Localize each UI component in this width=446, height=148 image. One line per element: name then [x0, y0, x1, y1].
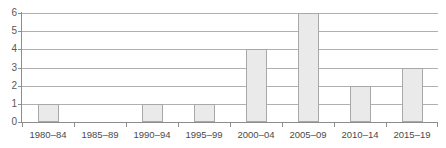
y-tick-label-2: 2: [2, 81, 17, 91]
bar-2005–09: [298, 13, 319, 122]
y-tick-label-1: 1: [2, 99, 17, 109]
bar-2015–19: [402, 68, 423, 123]
y-tick-label-3: 3: [2, 63, 17, 73]
y-tick-label-0: 0: [2, 117, 17, 127]
bar-2000–04: [246, 49, 267, 122]
x-tick-mark-2: [126, 122, 127, 127]
bar-1990–94: [142, 104, 163, 122]
x-tick-mark-3: [178, 122, 179, 127]
x-tick-label-1985–89: 1985–89: [74, 129, 126, 141]
x-tick-mark-1: [74, 122, 75, 127]
x-tick-label-2015–19: 2015–19: [386, 129, 438, 141]
x-tick-label-2010–14: 2010–14: [334, 129, 386, 141]
x-tick-label-1990–94: 1990–94: [126, 129, 178, 141]
x-tick-mark-8: [437, 122, 438, 127]
x-tick-mark-5: [282, 122, 283, 127]
y-tick-label-6: 6: [2, 8, 17, 18]
y-tick-label-4: 4: [2, 44, 17, 54]
plot-area: [22, 13, 438, 122]
x-tick-mark-7: [386, 122, 387, 127]
y-tick-label-5: 5: [2, 26, 17, 36]
x-tick-label-1995–99: 1995–99: [178, 129, 230, 141]
x-tick-label-2005–09: 2005–09: [282, 129, 334, 141]
x-tick-label-2000–04: 2000–04: [230, 129, 282, 141]
bar-series: [22, 13, 438, 122]
bar-1995–99: [194, 104, 215, 122]
x-axis-labels: 1980–841985–891990–941995–992000–042005–…: [22, 129, 438, 143]
x-tick-label-1980–84: 1980–84: [22, 129, 74, 141]
bar-chart-figure: 0123456 1980–841985–891990–941995–992000…: [0, 0, 446, 148]
bar-2010–14: [350, 86, 371, 122]
x-tick-mark-4: [230, 122, 231, 127]
bar-1980–84: [38, 104, 59, 122]
x-tick-mark-0: [22, 122, 23, 127]
x-axis-ticks: [22, 122, 438, 128]
x-tick-mark-6: [334, 122, 335, 127]
